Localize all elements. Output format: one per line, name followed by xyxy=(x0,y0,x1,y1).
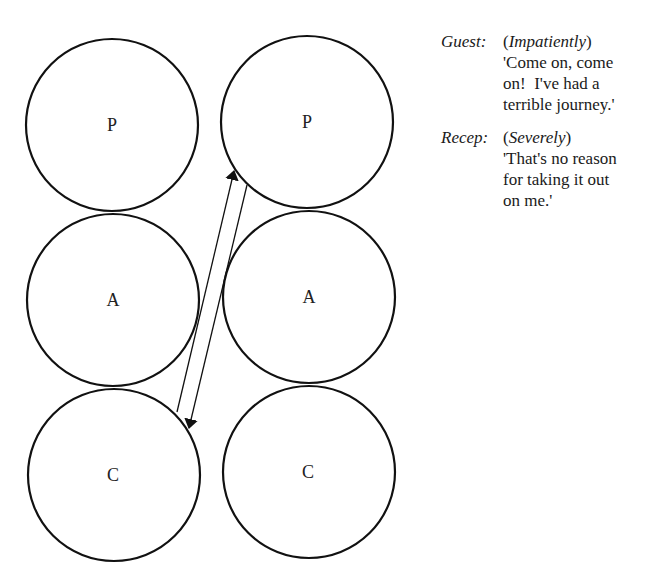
left-adult-label: A xyxy=(107,290,120,310)
speaker-label: Guest: xyxy=(441,31,503,115)
right-adult-label: A xyxy=(303,287,316,307)
turn-content: Severely 'That's no reason for taking it… xyxy=(503,127,672,211)
left-child-label: C xyxy=(107,465,119,485)
stage-direction: Severely xyxy=(503,128,571,147)
speech-line: on me.' xyxy=(503,190,672,211)
dialogue-text: Guest: Impatiently 'Come on, come on! I'… xyxy=(441,31,672,221)
left-adult-circle: A xyxy=(27,214,199,386)
right-parent-label: P xyxy=(302,112,312,132)
speaker-label: Recep: xyxy=(441,127,503,211)
right-child-label: C xyxy=(302,462,314,482)
dialogue-turn-receptionist: Recep: Severely 'That's no reason for ta… xyxy=(441,127,672,211)
speech-line: terrible journey.' xyxy=(503,94,672,115)
right-adult-circle: A xyxy=(223,211,395,383)
turn-content: Impatiently 'Come on, come on! I've had … xyxy=(503,31,672,115)
speech-line: 'That's no reason xyxy=(503,148,672,169)
left-child-circle: C xyxy=(28,389,200,561)
left-ego-states: P A C xyxy=(26,39,200,561)
right-ego-states: P A C xyxy=(221,36,395,558)
left-parent-label: P xyxy=(107,115,117,135)
transaction-arrows xyxy=(177,171,247,428)
speech-line: 'Come on, come xyxy=(503,52,672,73)
left-parent-circle: P xyxy=(26,39,198,211)
right-child-circle: C xyxy=(223,386,395,558)
speech-line: on! I've had a xyxy=(503,73,672,94)
right-parent-circle: P xyxy=(221,36,393,208)
dialogue-turn-guest: Guest: Impatiently 'Come on, come on! I'… xyxy=(441,31,672,115)
stage-direction: Impatiently xyxy=(503,32,592,51)
stimulus-arrow-child-to-parent xyxy=(177,171,234,412)
speech-line: for taking it out xyxy=(503,169,672,190)
